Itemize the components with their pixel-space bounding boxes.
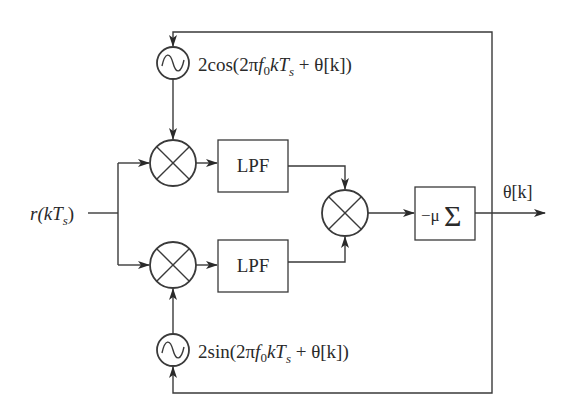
output-label: θ[k] bbox=[503, 182, 533, 202]
accumulator: −μ Σ bbox=[415, 187, 475, 240]
lpf-bottom: LPF bbox=[218, 240, 288, 292]
mu-label: −μ bbox=[421, 206, 440, 225]
lpf-label: LPF bbox=[237, 255, 270, 276]
lpf-top: LPF bbox=[218, 140, 288, 192]
lpf-bottom-to-mixer bbox=[288, 237, 345, 262]
costas-loop-diagram: 2cos(2πf0kTs + θ[k]) 2sin(2πf0kTs + θ[k]… bbox=[0, 0, 567, 414]
lpf-top-to-mixer bbox=[288, 166, 345, 189]
lpf-label: LPF bbox=[237, 155, 270, 176]
input-signal: r(kTs) bbox=[30, 163, 149, 265]
mixer-top bbox=[150, 140, 196, 186]
sigma-icon: Σ bbox=[444, 199, 461, 232]
sin-oscillator: 2sin(2πf0kTs + θ[k]) bbox=[157, 334, 349, 366]
mixer-bottom bbox=[150, 242, 196, 288]
mixer-middle bbox=[322, 190, 368, 236]
sin-oscillator-label: 2sin(2πf0kTs + θ[k]) bbox=[198, 341, 349, 366]
input-label: r(kTs) bbox=[30, 203, 74, 228]
cos-oscillator: 2cos(2πf0kTs + θ[k]) bbox=[157, 47, 352, 79]
cos-oscillator-label: 2cos(2πf0kTs + θ[k]) bbox=[198, 54, 352, 79]
